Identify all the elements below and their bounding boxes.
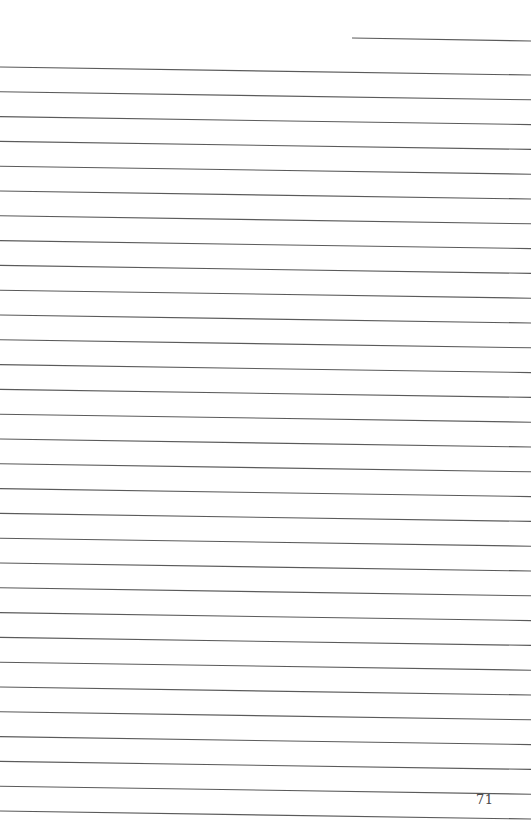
ruled-line (0, 191, 531, 199)
ruled-line (0, 117, 531, 125)
ruled-line (0, 265, 531, 273)
ruled-line (0, 241, 531, 249)
ruled-line (0, 737, 531, 745)
ruled-line (0, 613, 531, 621)
ruled-line (0, 166, 531, 174)
ruled-line (0, 712, 531, 720)
ruled-line (0, 588, 531, 596)
notebook-page: 71 (0, 0, 532, 830)
ruled-line (0, 315, 531, 323)
ruled-line (0, 662, 531, 670)
ruled-line (0, 513, 531, 521)
ruled-line (0, 414, 531, 422)
ruled-line (0, 637, 531, 645)
ruled-line (0, 489, 531, 497)
ruled-line (0, 365, 531, 373)
ruled-line (0, 439, 531, 447)
header-line (352, 38, 531, 41)
ruled-line (0, 563, 531, 571)
ruled-line (0, 464, 531, 472)
ruled-line (0, 811, 531, 819)
ruled-line (0, 389, 531, 397)
ruled-line (0, 538, 531, 546)
ruled-lines (0, 0, 532, 830)
ruled-line (0, 340, 531, 348)
ruled-line (0, 216, 531, 224)
ruled-line (0, 92, 531, 100)
page-number: 71 (476, 792, 494, 807)
ruled-line (0, 786, 531, 794)
ruled-line (0, 290, 531, 298)
ruled-line (0, 761, 531, 769)
ruled-line (0, 141, 531, 149)
ruled-line (0, 67, 531, 75)
ruled-line (0, 687, 531, 695)
